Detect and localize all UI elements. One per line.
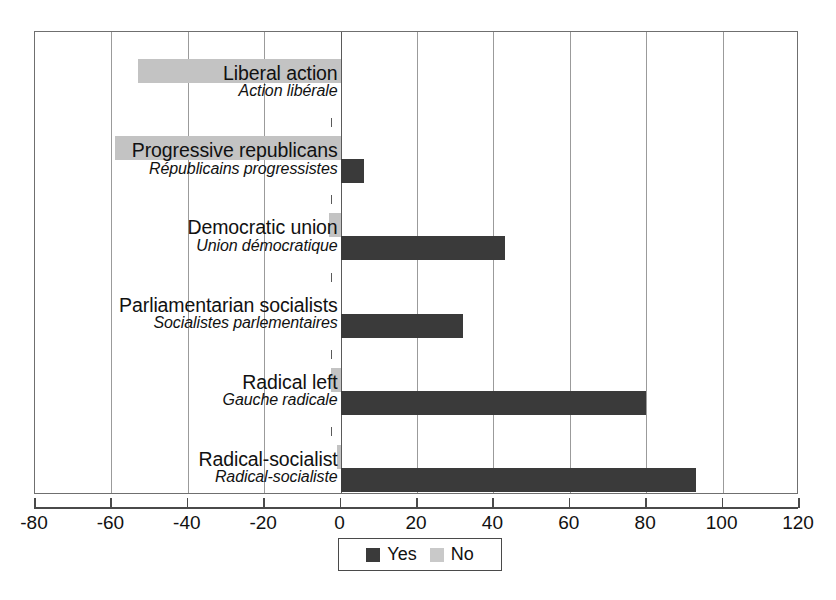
category-tick xyxy=(331,350,332,359)
chart-canvas: Liberal actionAction libéraleProgressive… xyxy=(0,0,836,600)
category-label-en: Liberal action xyxy=(223,63,338,83)
gridline xyxy=(493,32,494,493)
legend-label-yes: Yes xyxy=(387,544,416,565)
gridline xyxy=(570,32,571,493)
x-tick-label: -20 xyxy=(249,512,276,534)
x-tick xyxy=(492,498,494,508)
gridline xyxy=(111,32,112,493)
category-label: Liberal actionAction libérale xyxy=(223,63,338,100)
category-label-fr: Union démocratique xyxy=(187,238,337,255)
x-tick xyxy=(110,498,112,508)
legend: Yes No xyxy=(338,538,502,571)
x-tick-label: 20 xyxy=(405,512,426,534)
x-tick xyxy=(263,498,265,508)
legend-swatch-yes-icon xyxy=(366,548,380,562)
gridline xyxy=(188,32,189,493)
category-label-en: Democratic union xyxy=(187,217,337,237)
category-label-en: Radical left xyxy=(223,372,338,392)
category-label-fr: Républicains progressistes xyxy=(132,161,338,178)
legend-item-no[interactable]: No xyxy=(430,544,474,565)
gridline xyxy=(723,32,724,493)
category-tick xyxy=(331,427,332,436)
category-label-fr: Socialistes parlementaires xyxy=(119,315,338,332)
bar-yes xyxy=(341,468,696,492)
x-tick-label: -60 xyxy=(97,512,124,534)
x-tick-label: 100 xyxy=(706,512,738,534)
x-tick xyxy=(34,498,36,508)
category-label-fr: Radical-socialiste xyxy=(198,469,337,486)
x-tick-label: 80 xyxy=(635,512,656,534)
bar-yes xyxy=(341,159,364,183)
zero-line xyxy=(341,32,343,493)
category-label-en: Progressive republicans xyxy=(132,140,338,160)
category-label-en: Parliamentarian socialists xyxy=(119,295,338,315)
x-tick xyxy=(416,498,418,508)
x-tick xyxy=(798,498,800,508)
gridline xyxy=(264,32,265,493)
x-tick-label: 0 xyxy=(334,512,345,534)
legend-label-no: No xyxy=(451,544,474,565)
category-tick xyxy=(331,195,332,204)
x-tick-label: -80 xyxy=(20,512,47,534)
x-tick-label: -40 xyxy=(173,512,200,534)
x-tick xyxy=(645,498,647,508)
legend-swatch-no-icon xyxy=(430,548,444,562)
category-label: Democratic unionUnion démocratique xyxy=(187,217,337,254)
category-label-fr: Action libérale xyxy=(223,83,338,100)
bar-yes xyxy=(341,391,647,415)
x-tick-label: 120 xyxy=(782,512,814,534)
x-tick xyxy=(340,498,342,508)
gridline xyxy=(646,32,647,493)
category-label-en: Radical-socialist xyxy=(198,449,337,469)
x-tick xyxy=(722,498,724,508)
plot-area xyxy=(34,31,798,494)
category-label: Progressive republicansRépublicains prog… xyxy=(132,140,338,177)
bar-yes xyxy=(341,314,463,338)
x-tick-label: 60 xyxy=(558,512,579,534)
x-tick-label: 40 xyxy=(482,512,503,534)
category-tick xyxy=(331,273,332,282)
category-label: Radical leftGauche radicale xyxy=(223,372,338,409)
category-label: Radical-socialistRadical-socialiste xyxy=(198,449,337,486)
category-label: Parliamentarian socialistsSocialistes pa… xyxy=(119,295,338,332)
x-tick xyxy=(569,498,571,508)
legend-item-yes[interactable]: Yes xyxy=(366,544,416,565)
category-label-fr: Gauche radicale xyxy=(223,392,338,409)
category-tick xyxy=(331,118,332,127)
bar-yes xyxy=(341,236,505,260)
x-tick xyxy=(187,498,189,508)
gridline xyxy=(417,32,418,493)
